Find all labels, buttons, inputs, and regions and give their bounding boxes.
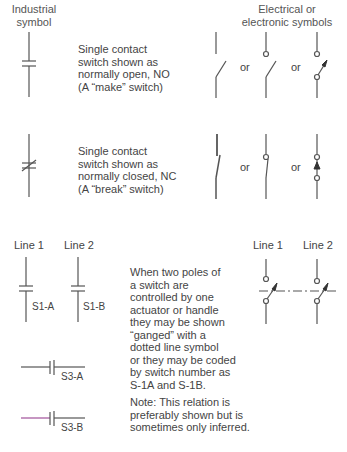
electrical-nc-symbol-terminal (264, 134, 269, 199)
industrial-nc-symbol (22, 134, 36, 197)
electrical-nc-symbol-plain (216, 134, 220, 199)
electrical-no-symbol-arrow (315, 32, 328, 98)
industrial-switch-s1a (19, 257, 33, 322)
electrical-nc-symbol-arrow (314, 134, 320, 199)
industrial-switch-s3b (21, 411, 85, 426)
electrical-no-symbol-plain (216, 32, 226, 98)
electrical-no-symbol-terminal (264, 32, 277, 98)
industrial-switch-s3a (21, 360, 85, 375)
diagram-canvas (0, 0, 347, 452)
industrial-switch-s1b (71, 257, 85, 322)
industrial-no-symbol (22, 32, 36, 97)
